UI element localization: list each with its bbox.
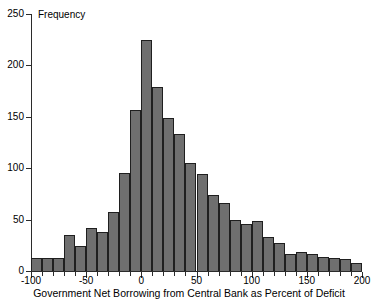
- y-tick-mark: [26, 220, 31, 221]
- x-tick-label: -50: [66, 275, 106, 286]
- y-axis-line: [31, 14, 32, 272]
- histogram-bar: [152, 87, 163, 271]
- y-tick-label: 150: [0, 112, 24, 122]
- y-tick-label: 200: [0, 60, 24, 70]
- histogram-figure: Frequency 050100150200250 -100-500501001…: [0, 0, 378, 306]
- x-tick-mark-minor: [119, 272, 120, 276]
- x-axis-title: Government Net Borrowing from Central Ba…: [0, 287, 378, 299]
- histogram-bar: [318, 257, 329, 271]
- histogram-bar: [285, 254, 296, 271]
- histogram-bar: [53, 258, 64, 271]
- y-tick-mark: [26, 117, 31, 118]
- x-tick-mark-minor: [274, 272, 275, 276]
- histogram-bar: [219, 203, 230, 271]
- y-axis-title: Frequency: [38, 9, 85, 20]
- histogram-bar: [230, 220, 241, 271]
- histogram-bar: [119, 173, 130, 271]
- histogram-bar: [64, 235, 75, 271]
- x-tick-label: 150: [287, 275, 327, 286]
- y-tick-mark: [26, 14, 31, 15]
- x-tick-label: -100: [11, 275, 51, 286]
- histogram-bar: [31, 258, 42, 271]
- histogram-bar: [329, 258, 340, 271]
- x-tick-mark-minor: [219, 272, 220, 276]
- x-tick-label: 50: [177, 275, 217, 286]
- x-tick-mark-minor: [329, 272, 330, 276]
- histogram-bar: [197, 174, 208, 271]
- x-tick-mark-minor: [174, 272, 175, 276]
- histogram-bar: [141, 40, 152, 271]
- histogram-bar: [185, 163, 196, 271]
- x-tick-label: 100: [232, 275, 272, 286]
- x-tick-label: 200: [342, 275, 378, 286]
- y-tick-label: 250: [0, 9, 24, 19]
- histogram-bar: [86, 228, 97, 271]
- histogram-bar: [208, 195, 219, 271]
- histogram-bar: [130, 110, 141, 271]
- x-tick-label: 0: [121, 275, 161, 286]
- plot-area: Frequency 050100150200250 -100-500501001…: [0, 0, 378, 306]
- histogram-bar: [97, 232, 108, 271]
- histogram-bar: [75, 246, 86, 271]
- histogram-bar: [307, 254, 318, 271]
- histogram-bar: [252, 221, 263, 271]
- histogram-bar: [274, 243, 285, 271]
- x-tick-mark-minor: [108, 272, 109, 276]
- y-tick-label: 100: [0, 163, 24, 173]
- x-tick-mark-minor: [163, 272, 164, 276]
- histogram-bar: [263, 237, 274, 271]
- histogram-bar: [296, 252, 307, 271]
- x-tick-mark-minor: [340, 272, 341, 276]
- histogram-bar: [351, 263, 362, 271]
- histogram-bar: [163, 118, 174, 271]
- histogram-bar: [174, 134, 185, 271]
- x-tick-mark-minor: [53, 272, 54, 276]
- y-tick-mark: [26, 168, 31, 169]
- histogram-bar: [108, 212, 119, 271]
- y-tick-label: 50: [0, 215, 24, 225]
- histogram-bar: [340, 259, 351, 271]
- y-tick-mark: [26, 65, 31, 66]
- x-tick-mark-minor: [64, 272, 65, 276]
- histogram-bar: [241, 224, 252, 271]
- histogram-bar: [42, 258, 53, 271]
